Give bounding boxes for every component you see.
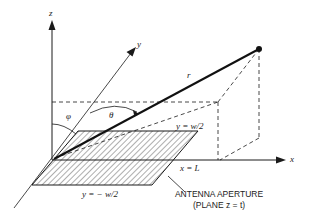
x-axis-label: x: [290, 155, 294, 164]
phi-label: φ: [66, 112, 71, 121]
caption-line1: ANTENNA APERTURE: [166, 189, 272, 200]
z-axis-label: z: [49, 9, 53, 18]
right-edge-label: x = L: [180, 164, 200, 173]
theta-label: θ: [109, 111, 113, 120]
y-axis-arrow-icon: [127, 47, 137, 57]
y-axis-label: y: [137, 40, 141, 49]
caption: ANTENNA APERTURE (PLANE z = t): [166, 189, 272, 211]
r-label: r: [187, 71, 191, 80]
caption-line2: (PLANE z = t): [166, 200, 272, 211]
theta-arc: [90, 106, 137, 113]
x-axis-arrow-icon: [276, 157, 286, 164]
observation-point: [256, 46, 262, 52]
phi-arc: [52, 124, 76, 134]
z-axis-arrow-icon: [49, 20, 56, 30]
bottom-edge-label: y = − w/2: [82, 190, 118, 199]
top-edge-label: y = w/2: [176, 122, 204, 131]
